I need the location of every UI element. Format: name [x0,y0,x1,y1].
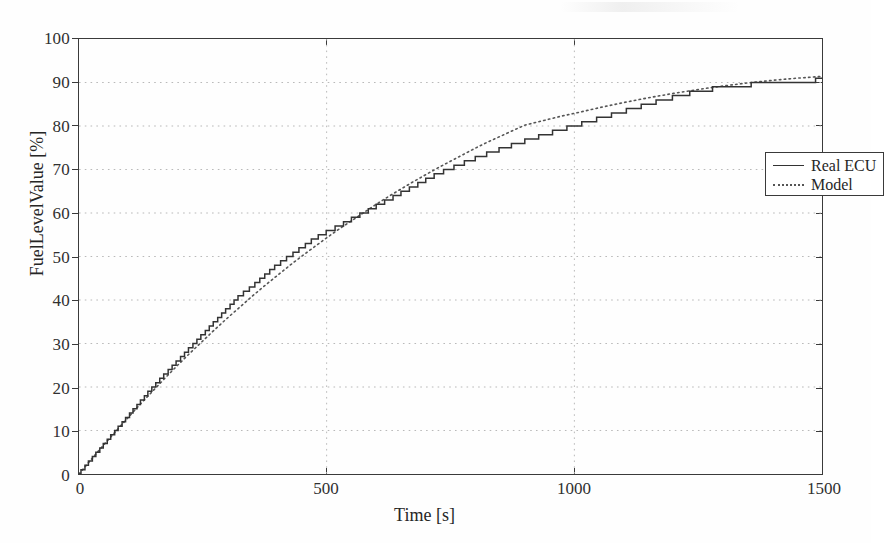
data-series-layer [79,39,822,474]
chart-legend[interactable]: Real ECU Model [765,152,884,196]
x-tick-label-1500: 1500 [807,480,841,497]
series-real-ecu-line [79,78,822,474]
y-tick-label-100: 100 [44,30,70,47]
x-axis-title-text: Time [s] [394,505,455,526]
legend-label-real-ecu: Real ECU [811,158,876,174]
x-axis-tick-labels: 0 500 1000 1500 [0,480,871,504]
y-tick-label-60: 60 [53,205,70,222]
y-tick-label-90: 90 [53,74,70,91]
y-tick-label-10: 10 [53,423,70,440]
plot-area: Real ECU Model [78,38,823,475]
legend-line-sample-solid-icon [771,161,805,171]
legend-label-model: Model [811,177,853,193]
y-axis-title: FuelLevelValue [%] [27,4,48,404]
y-tick-label-30: 30 [53,336,70,353]
legend-entry-model[interactable]: Model [771,175,878,194]
series-model-line [79,76,822,474]
y-tick-label-70: 70 [53,161,70,178]
x-tick-label-0: 0 [76,480,85,497]
y-tick-label-80: 80 [53,118,70,135]
legend-line-sample-dotted-icon [771,180,805,190]
x-tick-label-500: 500 [313,480,339,497]
legend-entry-real-ecu[interactable]: Real ECU [771,156,878,175]
x-axis-title: Time [s] [0,505,871,526]
y-tick-label-40: 40 [53,292,70,309]
y-tick-label-20: 20 [53,380,70,397]
x-tick-label-1000: 1000 [557,480,591,497]
scan-artifact [560,2,740,12]
y-tick-label-50: 50 [53,249,70,266]
